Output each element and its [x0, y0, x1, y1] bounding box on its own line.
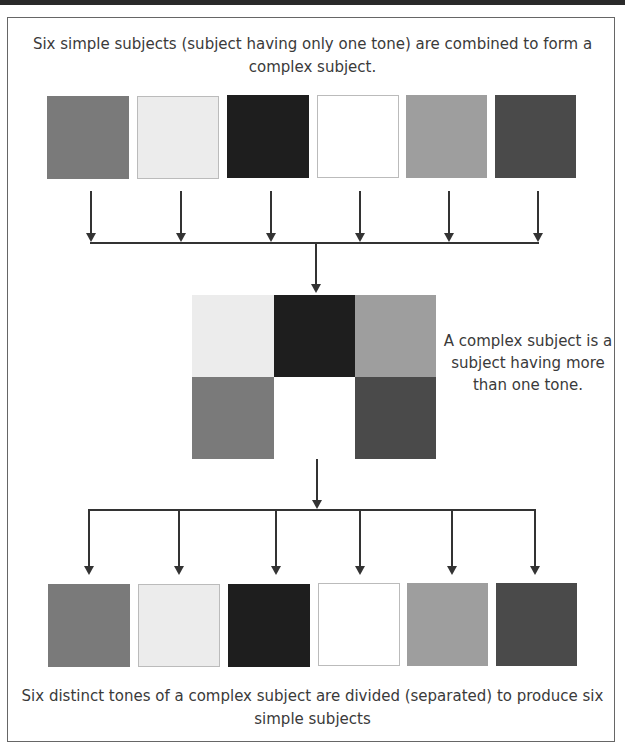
connector-line [451, 509, 453, 566]
arrow-down-icon [447, 566, 457, 575]
complex-cell-light-gray [192, 295, 274, 377]
connector-line [88, 509, 90, 566]
connector-line [275, 509, 277, 566]
arrow-down-icon [86, 233, 96, 242]
arrow-down-icon [174, 566, 184, 575]
bottom-square-5-light-medium-gray [407, 583, 488, 666]
top-square-5-light-medium-gray [406, 95, 487, 178]
complex-cell-black [274, 295, 355, 377]
complex-cell-dark-gray [355, 377, 436, 459]
connector-line [270, 191, 272, 235]
arrow-down-icon [355, 233, 365, 242]
connector-line [534, 509, 536, 566]
connector-line [359, 191, 361, 235]
arrow-down-icon [271, 566, 281, 575]
connector-line [178, 509, 180, 566]
arrow-down-icon [530, 566, 540, 575]
bottom-square-4-white [318, 583, 400, 666]
arrow-down-icon [176, 233, 186, 242]
arrow-down-icon [312, 500, 322, 509]
top-caption: Six simple subjects (subject having only… [20, 33, 605, 79]
top-bar [0, 0, 625, 5]
bottom-square-2-light-gray [138, 584, 220, 667]
complex-cell-medium-gray [192, 377, 274, 459]
arrow-down-icon [533, 233, 543, 242]
complex-cell-light-medium-gray [355, 295, 436, 377]
arrow-down-icon [355, 566, 365, 575]
top-square-6-dark-gray [495, 95, 576, 178]
arrow-down-icon [311, 284, 321, 293]
split-bus-line [88, 509, 535, 511]
complex-cell-white [274, 377, 355, 459]
connector-line [180, 191, 182, 235]
top-square-4-white [317, 95, 399, 178]
top-square-3-black [227, 95, 309, 178]
connector-line [315, 242, 317, 286]
top-square-1-medium-gray [47, 96, 129, 179]
side-caption: A complex subject is a subject having mo… [438, 330, 618, 396]
connector-line [316, 459, 318, 503]
arrow-down-icon [444, 233, 454, 242]
connector-line [90, 191, 92, 235]
bottom-caption: Six distinct tones of a complex subject … [20, 685, 605, 731]
bottom-square-1-medium-gray [48, 584, 130, 667]
arrow-down-icon [84, 566, 94, 575]
connector-line [537, 191, 539, 235]
connector-line [359, 509, 361, 566]
top-square-2-light-gray [137, 96, 219, 179]
arrow-down-icon [266, 233, 276, 242]
connector-line [448, 191, 450, 235]
bottom-square-3-black [228, 584, 310, 667]
bottom-square-6-dark-gray [496, 583, 577, 666]
